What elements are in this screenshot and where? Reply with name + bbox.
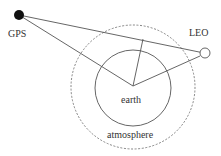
gps-satellite-icon — [14, 10, 24, 20]
leo-satellite-icon — [200, 48, 210, 58]
earth-circle — [95, 50, 171, 126]
impact-parameter-line — [133, 39, 143, 86]
leo-label: LEO — [189, 27, 208, 38]
atmosphere-label: atmosphere — [107, 129, 154, 140]
occultation-ray — [19, 15, 200, 86]
radio-occultation-diagram: GPS LEO earth atmosphere — [0, 0, 221, 156]
gps-label: GPS — [8, 28, 26, 39]
direct-ray — [19, 15, 204, 53]
earth-label: earth — [121, 94, 141, 105]
